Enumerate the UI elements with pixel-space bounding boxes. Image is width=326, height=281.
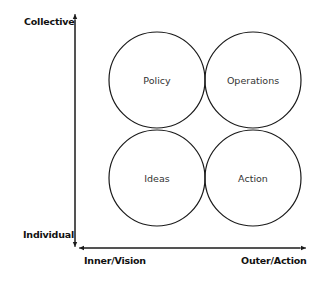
- y-axis-bottom-label: Individual: [23, 229, 74, 240]
- label-ideas: Ideas: [144, 173, 169, 184]
- y-axis-top-label: Collective: [24, 16, 75, 27]
- label-action: Action: [238, 173, 268, 184]
- label-policy: Policy: [143, 75, 170, 86]
- x-axis-left-label: Inner/Vision: [84, 255, 146, 266]
- label-operations: Operations: [227, 75, 279, 86]
- x-axis-right-label: Outer/Action: [241, 255, 307, 266]
